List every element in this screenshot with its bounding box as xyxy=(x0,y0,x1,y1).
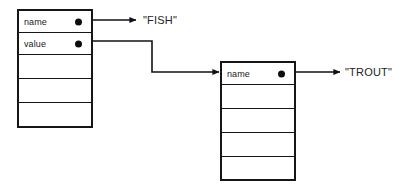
record-field-label: name xyxy=(227,69,250,79)
record-row xyxy=(222,85,294,109)
record-row xyxy=(19,103,91,126)
record-field-label: value xyxy=(24,39,46,49)
record-box-left: name value xyxy=(17,9,93,128)
record-row: name xyxy=(19,11,91,33)
pointer-dot-icon xyxy=(75,18,82,25)
record-pointer-diagram: name value name xyxy=(0,0,413,191)
record-row: name xyxy=(222,63,294,85)
pointer-dot-icon xyxy=(75,40,82,47)
string-value-fish: "FISH" xyxy=(143,14,177,26)
record-box-right: name xyxy=(220,61,296,181)
record-field-label: name xyxy=(24,17,47,27)
record-row xyxy=(222,109,294,133)
record-row: value xyxy=(19,33,91,55)
record-row xyxy=(222,157,294,179)
record-row xyxy=(19,55,91,79)
record-row xyxy=(222,133,294,157)
arrow-value-to-record xyxy=(84,41,219,72)
string-value-trout: "TROUT" xyxy=(345,66,392,78)
pointer-dot-icon xyxy=(278,70,285,77)
record-row xyxy=(19,79,91,103)
